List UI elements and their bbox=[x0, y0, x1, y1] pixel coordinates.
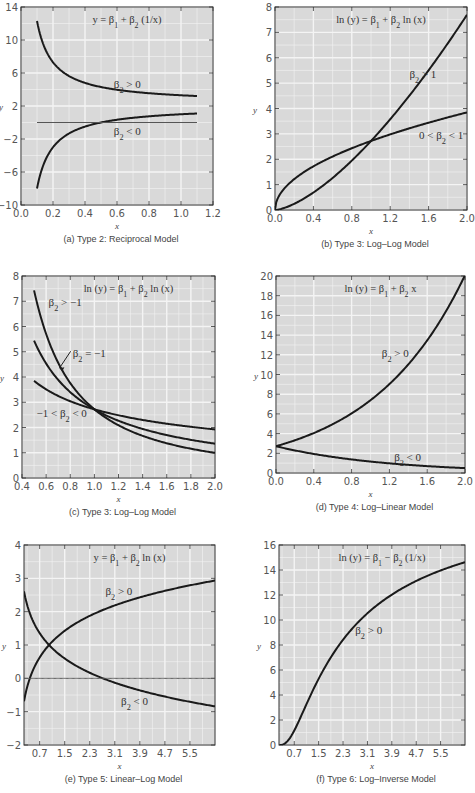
x-tick-label: 1.2 bbox=[382, 213, 398, 224]
y-tick-label: 1 bbox=[266, 180, 272, 191]
x-tick-label: 1.6 bbox=[421, 213, 437, 224]
y-tick-label: −10 bbox=[0, 200, 18, 211]
figure-canvas: 0.00.20.40.60.81.01.2−10−6−2261014xy(a) … bbox=[0, 0, 475, 793]
y-tick-label: 0 bbox=[270, 740, 276, 751]
x-tick-label: 1.6 bbox=[419, 476, 435, 487]
y-tick-label: 8 bbox=[266, 2, 272, 13]
y-tick-label: 6 bbox=[267, 409, 273, 420]
y-axis-label: y bbox=[253, 371, 258, 381]
y-tick-label: 2 bbox=[15, 607, 21, 618]
x-tick-label: 0.4 bbox=[305, 213, 321, 224]
y-tick-label: 2 bbox=[267, 448, 273, 459]
y-tick-label: 12 bbox=[263, 590, 276, 601]
y-tick-label: 4 bbox=[15, 540, 21, 551]
y-tick-label: 18 bbox=[260, 291, 273, 302]
x-tick-label: 0.8 bbox=[344, 213, 360, 224]
figure-caption: (b) Type 3: Log–Log Model bbox=[321, 239, 428, 249]
y-tick-label: 14 bbox=[5, 2, 18, 13]
y-tick-label: 4 bbox=[266, 104, 272, 115]
y-tick-label: 2 bbox=[12, 101, 18, 112]
chart-panel-e: 0.71.52.33.13.94.75.5−2−101234xy(e) Type… bbox=[1, 540, 215, 784]
chart-panel-c: 0.40.60.81.01.21.41.61.82.0012345678xy(c… bbox=[0, 271, 223, 517]
gridlines bbox=[276, 276, 465, 473]
y-tick-label: 16 bbox=[260, 310, 273, 321]
y-tick-label: 0 bbox=[267, 468, 273, 479]
y-tick-label: 4 bbox=[13, 372, 19, 383]
x-tick-label: 0.7 bbox=[286, 748, 302, 759]
x-axis-label: x bbox=[369, 761, 374, 771]
y-tick-label: 6 bbox=[12, 68, 18, 79]
y-tick-label: 0 bbox=[13, 473, 19, 484]
x-tick-label: 3.9 bbox=[132, 748, 148, 759]
y-tick-label: 6 bbox=[270, 665, 276, 676]
y-tick-label: 10 bbox=[263, 615, 276, 626]
figure-caption: (d) Type 4: Log–Linear Model bbox=[316, 502, 433, 512]
y-tick-label: 4 bbox=[267, 429, 273, 440]
x-tick-label: 5.5 bbox=[433, 748, 449, 759]
y-tick-label: 5 bbox=[13, 347, 19, 358]
y-tick-label: −1 bbox=[6, 707, 21, 718]
x-tick-label: 0.6 bbox=[38, 481, 54, 492]
figure-caption: (f) Type 6: Log–Inverse Model bbox=[316, 774, 435, 784]
x-tick-label: 4.7 bbox=[157, 748, 173, 759]
y-tick-label: 1 bbox=[13, 448, 19, 459]
x-tick-label: 1.0 bbox=[173, 208, 189, 219]
x-tick-label: 4.7 bbox=[408, 748, 424, 759]
chart-panel-d: 0.00.40.81.21.62.002468101214161820xy(d)… bbox=[253, 271, 473, 512]
x-tick-label: 2.3 bbox=[82, 748, 98, 759]
y-tick-label: −2 bbox=[6, 740, 21, 751]
x-tick-label: 0.4 bbox=[77, 208, 93, 219]
y-tick-label: 6 bbox=[266, 53, 272, 64]
x-axis-label: x bbox=[368, 226, 373, 236]
x-axis-label: x bbox=[116, 494, 121, 504]
x-axis-label: x bbox=[117, 761, 122, 771]
y-tick-label: 6 bbox=[13, 322, 19, 333]
x-axis-label: x bbox=[368, 489, 373, 499]
x-tick-label: 0.8 bbox=[141, 208, 157, 219]
y-tick-label: 8 bbox=[270, 640, 276, 651]
x-tick-label: 0.8 bbox=[62, 481, 78, 492]
y-axis-label: y bbox=[1, 641, 6, 651]
x-tick-label: 1.2 bbox=[205, 208, 221, 219]
x-tick-label: 3.1 bbox=[107, 748, 123, 759]
y-tick-label: 2 bbox=[13, 423, 19, 434]
figure-caption: (e) Type 5: Linear–Log Model bbox=[65, 774, 182, 784]
y-tick-label: −6 bbox=[3, 167, 18, 178]
x-tick-label: 1.4 bbox=[135, 481, 151, 492]
y-tick-label: 5 bbox=[266, 78, 272, 89]
y-tick-label: 7 bbox=[266, 27, 272, 38]
y-tick-label: 20 bbox=[260, 271, 273, 282]
x-tick-label: 1.2 bbox=[111, 481, 127, 492]
x-tick-label: 1.0 bbox=[86, 481, 102, 492]
x-tick-label: 3.1 bbox=[359, 748, 375, 759]
x-tick-label: 0.4 bbox=[306, 476, 322, 487]
y-tick-label: 3 bbox=[15, 573, 21, 584]
y-tick-label: 0 bbox=[15, 673, 21, 684]
x-tick-label: 0.8 bbox=[344, 476, 360, 487]
x-tick-label: 3.9 bbox=[384, 748, 400, 759]
y-tick-label: 3 bbox=[13, 397, 19, 408]
x-tick-label: 2.0 bbox=[457, 476, 473, 487]
x-tick-label: 0.2 bbox=[45, 208, 61, 219]
x-tick-label: 2.0 bbox=[459, 213, 475, 224]
figure-caption: (a) Type 2: Reciprocal Model bbox=[64, 234, 179, 244]
x-tick-label: 1.5 bbox=[311, 748, 327, 759]
chart-panel-b: 0.00.40.81.21.62.0012345678xy(b) Type 3:… bbox=[252, 2, 475, 249]
y-tick-label: −2 bbox=[3, 134, 18, 145]
chart-panel-a: 0.00.20.40.60.81.01.2−10−6−2261014xy(a) … bbox=[0, 2, 221, 244]
x-tick-label: 1.2 bbox=[381, 476, 397, 487]
x-tick-label: 1.8 bbox=[183, 481, 199, 492]
x-tick-label: 1.6 bbox=[159, 481, 175, 492]
y-tick-label: 2 bbox=[270, 715, 276, 726]
x-tick-label: 1.5 bbox=[57, 748, 73, 759]
y-tick-label: 2 bbox=[266, 154, 272, 165]
y-tick-label: 14 bbox=[263, 565, 276, 576]
y-axis-label: y bbox=[252, 105, 257, 115]
y-tick-label: 0 bbox=[266, 205, 272, 216]
y-tick-label: 7 bbox=[13, 296, 19, 307]
y-tick-label: 8 bbox=[13, 271, 19, 282]
x-tick-label: 0.7 bbox=[32, 748, 48, 759]
x-tick-label: 5.5 bbox=[182, 748, 198, 759]
y-tick-label: 1 bbox=[15, 640, 21, 651]
y-tick-label: 4 bbox=[270, 690, 276, 701]
